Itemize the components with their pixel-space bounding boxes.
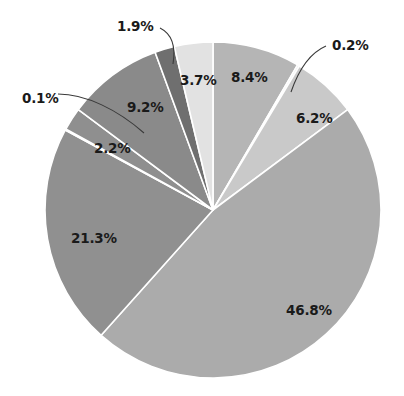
pie-label-1-9: 1.9% bbox=[117, 20, 154, 34]
pie-label-6-2: 6.2% bbox=[296, 112, 333, 126]
pie-label-3-7: 3.7% bbox=[180, 74, 217, 88]
pie-label-2-2: 2.2% bbox=[94, 142, 131, 156]
pie-chart-canvas bbox=[0, 0, 404, 396]
pie-label-0-2: 0.2% bbox=[332, 39, 369, 53]
pie-slices-group bbox=[45, 42, 381, 378]
pie-label-46-8: 46.8% bbox=[286, 304, 332, 318]
pie-label-8-4: 8.4% bbox=[231, 71, 268, 85]
pie-label-21-3: 21.3% bbox=[71, 232, 117, 246]
pie-chart-figure: 8.4%0.2%6.2%46.8%21.3%0.1%2.2%9.2%1.9%3.… bbox=[0, 0, 404, 396]
pie-label-9-2: 9.2% bbox=[127, 101, 164, 115]
pie-label-0-1: 0.1% bbox=[22, 92, 59, 106]
